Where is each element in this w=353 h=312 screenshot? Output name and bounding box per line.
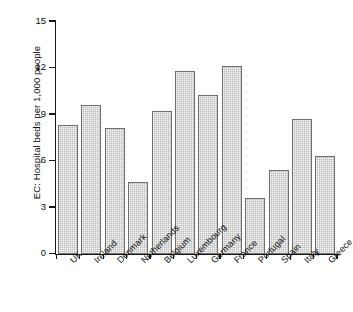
bar — [315, 156, 335, 254]
y-tick-mark — [49, 206, 56, 207]
y-axis-line — [55, 20, 56, 255]
bar-chart: EC: Hospital beds per 1,000 people 03691… — [0, 0, 353, 312]
bar — [292, 119, 312, 254]
y-tick-label: 6 — [0, 154, 46, 165]
y-tick-mark — [49, 20, 56, 21]
bar — [105, 128, 125, 254]
y-tick-mark — [49, 67, 56, 68]
bar — [81, 105, 101, 254]
y-tick-mark — [49, 160, 56, 161]
bar — [58, 125, 78, 254]
x-tick-mark — [56, 254, 57, 259]
y-tick-label: 3 — [0, 201, 46, 212]
y-tick-mark — [49, 113, 56, 114]
y-tick-label: 9 — [0, 108, 46, 119]
y-tick-label: 0 — [0, 247, 46, 258]
y-tick-label: 12 — [0, 61, 46, 72]
y-tick-label: 15 — [0, 15, 46, 26]
y-axis-title: EC: Hospital beds per 1,000 people — [31, 13, 42, 233]
